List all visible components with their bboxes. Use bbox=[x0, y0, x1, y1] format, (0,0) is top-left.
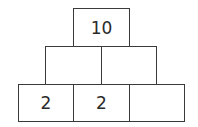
pyramid-middle-left-cell bbox=[45, 46, 102, 85]
pyramid-bottom-right-cell bbox=[129, 84, 185, 122]
pyramid-top-cell: 10 bbox=[73, 8, 130, 47]
pyramid-middle-right-cell bbox=[101, 46, 157, 85]
pyramid-bottom-left-cell: 2 bbox=[18, 84, 74, 122]
pyramid-bottom-middle-cell: 2 bbox=[73, 84, 130, 122]
